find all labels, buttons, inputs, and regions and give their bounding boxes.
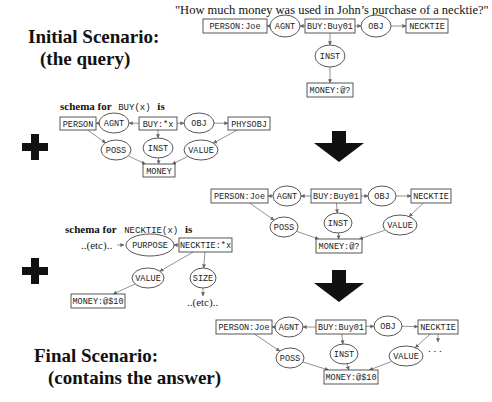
final-graph: PERSON:JoeAGNTBUY:Buy01OBJNECKTIEPOSSINS… — [216, 316, 458, 384]
node-label-buy: BUY:*x — [143, 120, 174, 130]
schema-necktie-label: schema for NECKTIE(x) is — [65, 223, 193, 236]
node-label-poss: POSS — [280, 354, 300, 364]
plus-icon — [22, 134, 48, 160]
edge-person-to-poss — [254, 334, 279, 351]
node-label-inst: INST — [320, 52, 340, 62]
node-label-neck: NECKTIE — [420, 323, 456, 333]
node-label-poss: POSS — [274, 223, 294, 233]
conceptual-graph-diagram: Initial Scenario: (the query) Final Scen… — [0, 0, 492, 402]
edge-value-to-money — [172, 156, 188, 164]
edge-person-to-poss — [250, 203, 274, 220]
node-label-neck: NECKTIE — [413, 192, 449, 202]
schema-necktie-suffix: is — [185, 223, 193, 235]
plus-icon — [22, 258, 48, 284]
edge-buy-to-inst — [342, 334, 343, 344]
node-label-money: MONEY:@$10 — [72, 297, 123, 307]
edge-value-to-money — [113, 284, 135, 294]
node-label-value: VALUE — [135, 274, 161, 284]
node-label-purpose: PURPOSE — [132, 241, 168, 251]
node-label-person: PERSON:Joe — [218, 323, 269, 333]
node-label-agnt: AGNT — [275, 22, 295, 32]
edge-poss-to-money — [303, 362, 329, 370]
schema-necktie-prefix: schema for — [65, 223, 117, 235]
intermediate-graph: PERSON:JoeAGNTBUY:Buy01OBJNECKTIEPOSSINS… — [211, 186, 451, 253]
initial-scenario-title: Initial Scenario: — [28, 26, 159, 47]
node-label-value: VALUE — [393, 352, 419, 362]
schema-buy-graph: PERSONAGNTBUY:*xOBJPHYSOBJPOSSINSTVALUEM… — [60, 113, 270, 177]
edge-person-to-poss — [87, 130, 105, 143]
node-label-value: VALUE — [387, 221, 413, 231]
node-label-person: PERSON — [63, 120, 94, 130]
node-label-buy: BUY:Buy01 — [313, 192, 359, 202]
node-label-agnt: AGNT — [277, 192, 297, 202]
node-label-phys: PHYSOBJ — [231, 120, 267, 130]
down-arrow-icon — [314, 131, 364, 162]
down-arrow-icon — [314, 270, 364, 302]
final-scenario-title: Final Scenario: — [34, 345, 158, 366]
edge-value-to-money — [369, 361, 391, 370]
node-label-obj: OBJ — [374, 192, 389, 202]
node-label-obj: OBJ — [191, 119, 206, 129]
edge-buy-to-inst — [337, 203, 338, 213]
etc-size-label: ..(etc).. — [187, 296, 218, 309]
node-label-agnt: AGNT — [104, 119, 124, 129]
node-label-money: MONEY:@? — [310, 86, 351, 96]
edge-inst-to-money — [347, 364, 349, 370]
etc-purpose-label: ..(etc).. — [81, 239, 112, 252]
node-label-value: VALUE — [188, 146, 214, 156]
final-scenario-subtitle: (contains the answer) — [48, 367, 221, 389]
node-label-poss: POSS — [106, 146, 126, 156]
schema-buy-label: schema for BUY(x) is — [60, 100, 165, 113]
edge-neck-to-size — [204, 252, 205, 268]
node-label-money: MONEY:@$10 — [325, 373, 376, 383]
edge-neck-to-value — [160, 252, 194, 271]
node-label-inst: INST — [334, 350, 354, 360]
node-label-buy: BUY:Buy01 — [318, 323, 364, 333]
schema-buy-prefix: schema for — [60, 100, 112, 112]
node-label-neck: NECKTIE:*x — [180, 241, 231, 251]
node-label-person: PERSON:Joe — [214, 192, 265, 202]
node-label-inst: INST — [148, 144, 168, 154]
edge-neck-to-value — [409, 203, 423, 217]
node-label-agnt: AGNT — [279, 323, 299, 333]
node-label-money: MONEY — [146, 167, 172, 177]
node-label-obj: OBJ — [380, 322, 395, 332]
edge-value-to-money — [359, 230, 385, 239]
ellipsis-label: . . . — [428, 342, 442, 354]
node-label-buy: BUY:Buy01 — [307, 22, 353, 32]
node-label-person: PERSON:Joe — [209, 22, 260, 32]
query-sentence: "How much money was used in John’s purch… — [175, 3, 489, 17]
initial-scenario-subtitle: (the query) — [40, 48, 130, 70]
node-label-obj: OBJ — [368, 22, 383, 32]
edge-phys-to-value — [213, 130, 237, 143]
schema-buy-mono: BUY(x) — [118, 103, 150, 113]
query-graph: PERSON:JoeAGNTBUY:Buy01OBJNECKTIEINSTMON… — [203, 15, 448, 97]
node-label-neck: NECKTIE — [409, 22, 445, 32]
node-label-size: SIZE — [193, 274, 213, 284]
edge-poss-to-money — [297, 231, 319, 239]
edge-poss-to-money — [128, 156, 145, 164]
schema-buy-suffix: is — [157, 100, 165, 112]
node-label-money: MONEY:@? — [319, 242, 360, 252]
node-label-inst: INST — [328, 219, 348, 229]
